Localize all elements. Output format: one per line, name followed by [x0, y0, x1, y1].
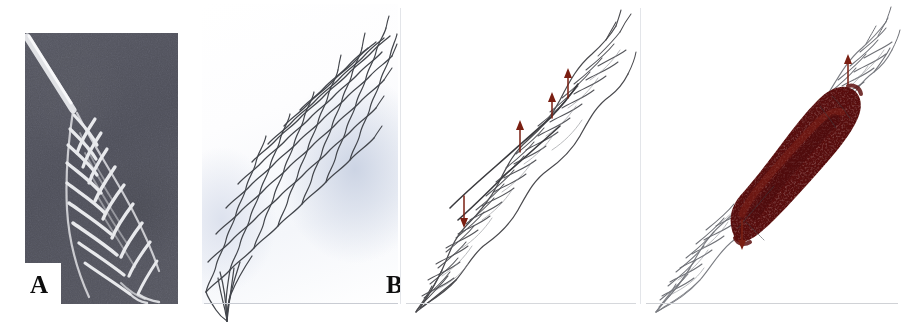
panel-d-stent-graft-diagram [642, 0, 909, 324]
panel-c: C [402, 0, 638, 324]
panel-b-baseline-rule [204, 303, 398, 304]
panel-label-b: B [386, 272, 400, 297]
panel-d-baseline-rule [646, 303, 898, 304]
panel-c-baseline-rule [406, 303, 636, 304]
figure-container: A [0, 0, 909, 324]
panel-d: D [642, 0, 909, 324]
panel-divider-c-d [640, 8, 641, 304]
panel-divider-b-c [400, 8, 401, 304]
panel-b: B [200, 0, 400, 324]
graft-membrane [731, 85, 861, 244]
panel-label-a: A [30, 272, 48, 297]
panel-b-stent-diagram [200, 0, 400, 324]
panel-a: A [0, 0, 200, 324]
panel-c-stent-diagram [402, 0, 638, 324]
